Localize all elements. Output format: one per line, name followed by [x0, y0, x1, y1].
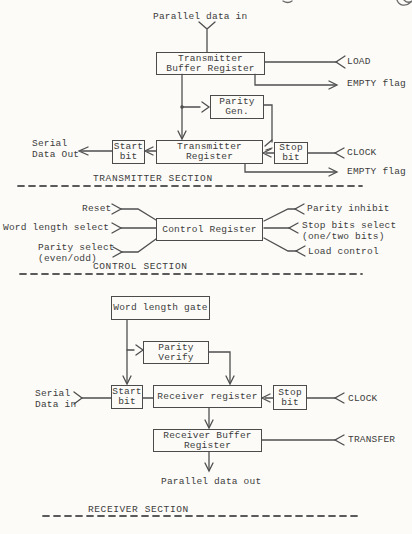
- wire-parity-select: [113, 239, 156, 257]
- wire-empty-flag-top: [255, 74, 337, 89]
- word-length-gate-box: Word length gate: [111, 296, 210, 320]
- wire-parity-inhibit: [264, 204, 304, 221]
- control-section-title: CONTROL SECTION: [93, 261, 188, 272]
- uart-block-diagram-page: Parallel data in Transmitter Buffer Regi…: [0, 0, 412, 534]
- receiver-buffer-register-box: Receiver Buffer Register: [153, 429, 262, 452]
- wire-stopbit-to-register-rx: [262, 394, 273, 402]
- receiver-register-box: Receiver register: [153, 385, 262, 408]
- rx-stop-bit-box: Stop bit: [273, 385, 307, 410]
- load-label: LOAD: [347, 57, 371, 68]
- stop-bits-select-label: Stop bits select (one/two bits): [302, 221, 396, 242]
- load-control-label: Load control: [308, 247, 379, 258]
- wire-wordlengthgate-down: [123, 320, 131, 384]
- page-scan-artifact: [283, 0, 412, 5]
- parallel-data-in-label: Parallel data in: [153, 12, 247, 23]
- wire-parallel-data-in: [199, 22, 215, 52]
- transmitter-register-box: Transmitter Register: [156, 140, 263, 164]
- wire-parity-gen-to-register: [264, 105, 272, 150]
- parity-verify-box: Parity Verify: [143, 341, 209, 364]
- wire-stop-bits-select: [264, 223, 298, 233]
- wire-load-control: [264, 238, 305, 256]
- word-length-select-label: Word length select: [3, 223, 109, 234]
- parity-inhibit-label: Parity inhibit: [307, 204, 390, 215]
- parity-gen-box: Parity Gen.: [210, 95, 264, 119]
- wire-clock-rx: [307, 393, 344, 403]
- serial-data-out-label: Serial Data Out: [32, 139, 79, 160]
- transmitter-buffer-register-box: Transmitter Buffer Register: [156, 52, 265, 75]
- wire-empty-flag-bottom: [245, 164, 337, 176]
- wire-parallel-data-out: [205, 452, 213, 471]
- empty-flag-bottom-label: EMPTY flag: [347, 167, 406, 178]
- wire-parity-verify-to-register: [209, 352, 234, 384]
- rx-clock-label: CLOCK: [348, 394, 378, 405]
- wire-load: [265, 56, 345, 68]
- tx-clock-label: CLOCK: [347, 148, 377, 159]
- control-register-box: Control Register: [156, 218, 263, 241]
- wire-transfer: [262, 435, 344, 445]
- wire-to-parity-verify: [127, 345, 143, 355]
- transmitter-section-title: TRANSMITTER SECTION: [93, 173, 213, 184]
- wire-to-parity-gen: [182, 102, 209, 112]
- tx-start-bit-box: Start bit: [112, 140, 145, 164]
- wire-serial-data-out: [79, 147, 112, 155]
- wire-register-to-buffer-rx: [205, 408, 213, 428]
- tx-stop-bit-box: Stop bit: [274, 142, 308, 164]
- wire-stopbit-to-register: [263, 149, 274, 157]
- parallel-data-out-label: Parallel data out: [161, 477, 261, 488]
- rx-start-bit-box: Start bit: [111, 385, 143, 409]
- wire-reset: [112, 204, 156, 220]
- wire-serial-data-in: [74, 392, 111, 404]
- wire-clock-tx: [308, 148, 344, 158]
- serial-data-in-label: Serial Data in: [35, 389, 76, 410]
- receiver-section-title: RECEIVER SECTION: [88, 504, 189, 515]
- empty-flag-top-label: EMPTY flag: [347, 79, 406, 90]
- wire-word-length-select: [112, 223, 156, 233]
- transfer-label: TRANSFER: [348, 435, 395, 446]
- wire-register-to-startbit: [145, 147, 156, 155]
- reset-label: Reset: [82, 204, 112, 215]
